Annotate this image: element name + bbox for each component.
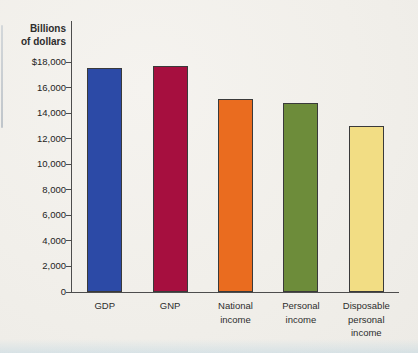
y-axis-title: Billions of dollars — [6, 22, 66, 48]
y-tick-label: 0 — [14, 286, 66, 297]
y-tick-label: 16,000 — [14, 82, 66, 93]
category-label-gdp: GDP — [72, 299, 138, 313]
y-tick-label: 10,000 — [14, 158, 66, 169]
y-tick — [66, 164, 71, 165]
category-label-gnp: GNP — [137, 299, 203, 313]
y-tick-label: 6,000 — [14, 209, 66, 220]
bar-personal-income — [283, 103, 318, 292]
category-label-disposable-personal-income: Disposable personal income — [333, 299, 399, 340]
x-axis-line — [71, 292, 399, 293]
bar-national-income — [218, 99, 253, 292]
y-tick-label: 4,000 — [14, 235, 66, 246]
y-tick-label: $18,000 — [14, 56, 66, 67]
y-tick — [66, 113, 71, 114]
y-tick — [66, 215, 71, 216]
y-axis-line — [71, 21, 72, 292]
category-label-national-income: National income — [203, 299, 269, 326]
page-edge-artifact — [1, 25, 3, 128]
y-tick — [66, 62, 71, 63]
y-tick — [66, 189, 71, 190]
bar-gdp — [87, 68, 122, 292]
y-tick-label: 2,000 — [14, 260, 66, 271]
y-tick — [66, 266, 71, 267]
y-tick — [66, 240, 71, 241]
y-tick — [66, 292, 71, 293]
y-axis-title-line1: Billions — [6, 22, 66, 35]
bar-disposable-personal-income — [349, 126, 384, 292]
y-axis-title-line2: of dollars — [6, 35, 66, 48]
y-tick-label: 14,000 — [14, 107, 66, 118]
scanned-textbook-page: Billions of dollars $18,00016,00014,0001… — [0, 0, 418, 353]
y-tick — [66, 87, 71, 88]
bar-gnp — [153, 66, 188, 292]
y-tick-label: 12,000 — [14, 133, 66, 144]
page-bottom-tint — [0, 339, 418, 353]
y-tick-label: 8,000 — [14, 184, 66, 195]
category-label-personal-income: Personal income — [268, 299, 334, 326]
y-tick — [66, 138, 71, 139]
